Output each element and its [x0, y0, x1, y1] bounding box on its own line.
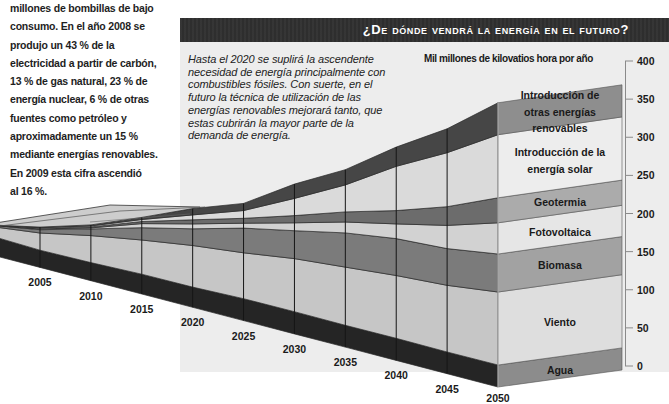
- label-biomasa: Biomasa: [500, 257, 620, 274]
- y-tick-label: 350: [637, 93, 655, 105]
- y-tick-label: 300: [637, 131, 655, 143]
- x-tick-label: 2015: [125, 303, 159, 315]
- x-tick-label: 2035: [328, 356, 362, 368]
- y-tick-label: 50: [637, 322, 649, 334]
- x-tick-label: 2045: [430, 383, 464, 395]
- x-tick-label: 2025: [227, 330, 261, 342]
- x-tick-label: 2030: [277, 343, 311, 355]
- x-tick-label: 2020: [176, 316, 210, 328]
- y-tick-label: 0: [637, 360, 643, 372]
- y-axis-ruler: [625, 61, 633, 366]
- y-tick-label: 200: [637, 208, 655, 220]
- y-tick-label: 250: [637, 169, 655, 181]
- label-viento: Viento: [500, 314, 620, 331]
- chart-side-face: [0, 103, 498, 387]
- label-geotermia: Geotermia: [500, 194, 620, 211]
- x-tick-label: 2005: [23, 276, 57, 288]
- y-tick-label: 400: [637, 55, 655, 67]
- label-fotovoltaica: Fotovoltaica: [500, 224, 620, 241]
- x-tick-label: 2010: [74, 290, 108, 302]
- label-energia-solar: Introducción de la energía solar: [500, 144, 620, 178]
- x-tick-label: 2040: [379, 369, 413, 381]
- y-tick-label: 100: [637, 284, 655, 296]
- x-tick-label: 2050: [481, 392, 515, 404]
- label-agua: Agua: [500, 362, 620, 379]
- y-tick-label: 150: [637, 246, 655, 258]
- label-otras-energias: Introducción de otras energías renovable…: [500, 87, 620, 137]
